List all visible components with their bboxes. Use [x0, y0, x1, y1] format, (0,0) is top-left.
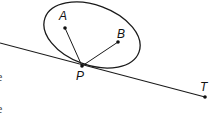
- cropped-text-1: e: [0, 70, 2, 85]
- point-T: [203, 95, 207, 99]
- cropped-text-2: e: [0, 102, 2, 116]
- label-A: A: [58, 9, 67, 23]
- label-P: P: [76, 69, 84, 83]
- segment-PB: [82, 42, 118, 66]
- tangent-line: [0, 43, 205, 97]
- ellipse: [35, 0, 149, 80]
- label-B: B: [117, 27, 125, 41]
- ellipse-diagram: A B P T: [0, 0, 211, 116]
- point-A: [63, 26, 67, 30]
- point-P: [80, 64, 84, 68]
- label-T: T: [200, 80, 209, 94]
